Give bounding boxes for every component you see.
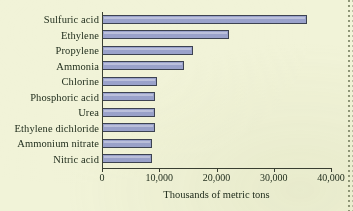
bar-highlight: [104, 156, 150, 158]
bar-track: [102, 43, 342, 59]
x-tick-label: 0: [100, 172, 105, 184]
bar-track: [102, 90, 342, 106]
bar-highlight: [104, 63, 182, 65]
category-label: Ammonia: [0, 61, 99, 72]
category-label: Sulfuric acid: [0, 14, 99, 25]
bar-row: Urea: [0, 105, 340, 121]
bar: [102, 77, 157, 86]
bar: [102, 92, 155, 101]
bar-highlight: [104, 110, 153, 112]
bar-row: Ammonia: [0, 59, 340, 75]
bar-track: [102, 74, 342, 90]
bar: [102, 139, 152, 148]
bar-row: Ethylene: [0, 28, 340, 44]
category-label: Chlorine: [0, 76, 99, 87]
bar-track: [102, 136, 342, 152]
bar-track: [102, 121, 342, 137]
bar-highlight: [104, 125, 153, 127]
bar-row: Nitric acid: [0, 152, 340, 168]
bar-highlight: [104, 141, 150, 143]
x-axis-title: Thousands of metric tons: [102, 189, 331, 200]
category-label: Phosphoric acid: [0, 92, 99, 103]
y-axis-line: [102, 12, 103, 169]
bar-track: [102, 59, 342, 75]
bar: [102, 108, 155, 117]
x-tick-label: 40,000: [317, 172, 345, 184]
bar-chart: Sulfuric acidEthylenePropyleneAmmoniaChl…: [0, 0, 353, 211]
bar-highlight: [104, 94, 153, 96]
bar: [102, 30, 229, 39]
bar-row: Ethylene dichloride: [0, 121, 340, 137]
bar-track: [102, 12, 342, 28]
bar-highlight: [104, 79, 155, 81]
scan-edge-artifact: [348, 0, 350, 211]
category-label: Ethylene: [0, 30, 99, 41]
bar-rows: Sulfuric acidEthylenePropyleneAmmoniaChl…: [0, 12, 340, 167]
bar: [102, 46, 193, 55]
bar-row: Phosphoric acid: [0, 90, 340, 106]
bar-row: Propylene: [0, 43, 340, 59]
bar-highlight: [104, 32, 227, 34]
category-label: Propylene: [0, 45, 99, 56]
category-label: Nitric acid: [0, 154, 99, 165]
bar-track: [102, 28, 342, 44]
category-label: Ethylene dichloride: [0, 123, 99, 134]
x-tick-label: 30,000: [260, 172, 288, 184]
category-label: Ammonium nitrate: [0, 138, 99, 149]
bar-row: Sulfuric acid: [0, 12, 340, 28]
x-tick-label: 20,000: [203, 172, 231, 184]
bar: [102, 61, 184, 70]
bar: [102, 15, 307, 24]
bar: [102, 154, 152, 163]
bar-track: [102, 105, 342, 121]
bar-track: [102, 152, 342, 168]
bar-row: Chlorine: [0, 74, 340, 90]
bar-row: Ammonium nitrate: [0, 136, 340, 152]
x-tick-label: 10,000: [146, 172, 174, 184]
plot-area: Sulfuric acidEthylenePropyleneAmmoniaChl…: [0, 0, 353, 211]
category-label: Urea: [0, 107, 99, 118]
bar: [102, 123, 155, 132]
bar-highlight: [104, 48, 191, 50]
bar-highlight: [104, 17, 305, 19]
